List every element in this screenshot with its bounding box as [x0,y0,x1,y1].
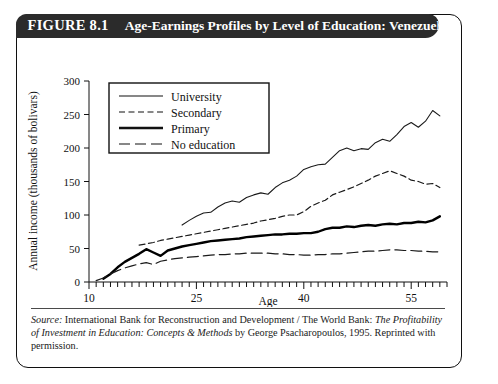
legend-label-secondary: Secondary [171,106,222,120]
figure-container: FIGURE 8.1 Age-Earnings Profiles by Leve… [16,14,462,368]
figure-header-bar: FIGURE 8.1 Age-Earnings Profiles by Leve… [16,14,439,38]
legend-label-primary: Primary [171,122,210,136]
y-axis-title: Annual income (thousands of bolivars) [27,91,40,271]
y-tick-label: 150 [64,176,81,188]
x-axis-tick-labels: 10254055 [83,292,417,304]
series-line-no-education [96,250,440,281]
source-label: Source: [31,314,62,325]
y-tick-label: 300 [64,75,81,87]
x-tick-label: 10 [83,292,95,304]
y-axis-tick-labels: 050100150200250300 [64,75,81,288]
figure-title: Age-Earnings Profiles by Level of Educat… [125,18,439,34]
x-axis-minor-ticks [89,282,447,289]
y-tick-label: 250 [64,109,81,121]
figure-number-label: FIGURE 8.1 [28,17,109,34]
legend-label-university: University [171,90,222,104]
x-tick-label: 55 [405,292,417,304]
source-text-part1: International Bank for Reconstruction an… [62,314,375,325]
series-line-primary [103,216,440,278]
chart-plot-area: 050100150200250300 10254055 Annual incom… [17,39,460,307]
x-tick-label: 40 [298,292,310,304]
x-axis-title: Age [258,295,277,307]
y-tick-label: 0 [75,276,81,288]
source-divider [31,308,445,309]
source-note: Source: International Bank for Reconstru… [31,313,449,353]
x-tick-label: 25 [191,292,203,304]
y-tick-label: 100 [64,209,81,221]
y-tick-label: 200 [64,142,81,154]
chart-legend: UniversitySecondaryPrimaryNo education [109,83,269,153]
legend-label-no-education: No education [171,138,235,152]
y-tick-label: 50 [69,243,81,255]
y-axis-ticks [84,81,89,282]
age-earnings-line-chart: 050100150200250300 10254055 Annual incom… [17,39,460,307]
